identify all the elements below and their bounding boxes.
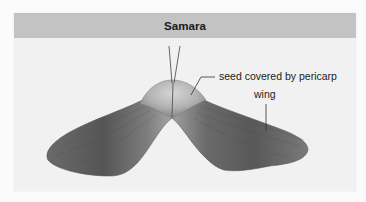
wing-label: wing — [254, 88, 276, 100]
samara-illustration — [0, 0, 366, 202]
right-wing — [172, 96, 308, 171]
seed-label: seed covered by pericarp — [219, 70, 337, 82]
